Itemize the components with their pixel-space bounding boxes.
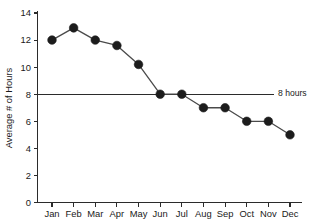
x-tick-label-sep: Sep bbox=[217, 208, 234, 219]
x-tick-label-jan: Jan bbox=[44, 208, 59, 219]
y-tick-label: 8 bbox=[26, 89, 31, 100]
y-tick-label: 0 bbox=[26, 197, 31, 208]
data-point-jul bbox=[178, 90, 187, 99]
data-point-may bbox=[134, 60, 143, 69]
x-tick-label-dec: Dec bbox=[282, 208, 299, 219]
x-tick-label-mar: Mar bbox=[87, 208, 103, 219]
data-point-oct bbox=[242, 117, 251, 126]
data-point-aug bbox=[199, 103, 208, 112]
reference-line-label: 8 hours bbox=[278, 88, 307, 98]
data-point-feb bbox=[69, 24, 78, 33]
y-axis-title: Average # of Hours bbox=[3, 67, 14, 148]
x-axis-ticks bbox=[52, 203, 290, 208]
data-point-jan bbox=[48, 36, 57, 45]
x-axis-labels: JanFebMarAprMayJunJulAugSepOctNovDec bbox=[44, 208, 298, 219]
data-point-nov bbox=[264, 117, 273, 126]
data-point-apr bbox=[113, 41, 122, 50]
x-tick-label-feb: Feb bbox=[66, 208, 82, 219]
data-point-dec bbox=[286, 131, 295, 140]
series-line bbox=[52, 28, 290, 135]
x-tick-label-oct: Oct bbox=[239, 208, 254, 219]
y-axis-ticks: 02468101214 bbox=[21, 7, 38, 208]
x-tick-label-may: May bbox=[130, 208, 148, 219]
chart-canvas: Average # of Hours 02468101214 8 hours J… bbox=[0, 0, 318, 222]
data-point-jun bbox=[156, 90, 165, 99]
x-tick-label-jul: Jul bbox=[176, 208, 188, 219]
y-tick-label: 2 bbox=[26, 170, 31, 181]
x-tick-label-nov: Nov bbox=[260, 208, 277, 219]
x-tick-label-aug: Aug bbox=[195, 208, 212, 219]
line-chart: Average # of Hours 02468101214 8 hours J… bbox=[0, 0, 318, 222]
reference-line-group: 8 hours bbox=[38, 88, 307, 98]
data-point-mar bbox=[91, 36, 100, 45]
x-tick-label-jun: Jun bbox=[153, 208, 168, 219]
y-tick-label: 4 bbox=[26, 143, 31, 154]
data-point-sep bbox=[221, 103, 230, 112]
x-tick-label-apr: Apr bbox=[110, 208, 125, 219]
y-tick-label: 10 bbox=[21, 62, 31, 73]
y-tick-label: 12 bbox=[21, 34, 31, 45]
y-tick-label: 6 bbox=[26, 116, 31, 127]
y-tick-label: 14 bbox=[21, 7, 31, 18]
